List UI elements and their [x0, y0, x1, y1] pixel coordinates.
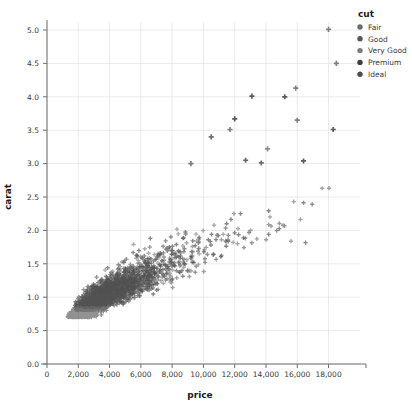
legend-swatch-very-good — [357, 48, 362, 53]
legend-label: Fair — [368, 23, 382, 32]
y-tick-label: 1.5 — [27, 260, 39, 269]
figure-background — [0, 0, 412, 406]
legend-label: Good — [368, 35, 388, 44]
y-tick-label: 3.0 — [27, 159, 39, 168]
x-tick-label: 14,000 — [253, 370, 279, 379]
y-axis-title: carat — [3, 183, 13, 210]
legend-swatch-fair — [357, 24, 362, 29]
legend-swatch-premium — [357, 60, 362, 65]
y-tick-label: 5.0 — [27, 26, 39, 35]
y-tick-label: 2.5 — [27, 193, 39, 202]
legend-swatch-good — [357, 36, 362, 41]
x-tick-label: 10,000 — [190, 370, 216, 379]
x-tick-label: 18,000 — [315, 370, 341, 379]
y-tick-label: 0.0 — [27, 360, 39, 369]
y-tick-label: 2.0 — [27, 226, 39, 235]
x-tick-label: 6,000 — [130, 370, 152, 379]
legend-title: cut — [358, 9, 375, 19]
legend-swatch-ideal — [357, 72, 362, 77]
legend-label: Premium — [368, 58, 401, 67]
x-tick-label: 0 — [45, 370, 50, 379]
y-tick-label: 4.5 — [27, 59, 39, 68]
y-tick-label: 0.5 — [27, 326, 39, 335]
x-tick-label: 8,000 — [161, 370, 183, 379]
y-tick-label: 3.5 — [27, 126, 39, 135]
legend-label: Ideal — [368, 70, 386, 79]
y-tick-label: 1.0 — [27, 293, 39, 302]
x-tick-label: 4,000 — [99, 370, 121, 379]
x-tick-label: 16,000 — [284, 370, 310, 379]
y-tick-label: 4.0 — [27, 93, 39, 102]
x-tick-label: 12,000 — [222, 370, 248, 379]
scatter-plot-figure: 0.00.51.01.52.02.53.03.54.04.55.002,0004… — [0, 0, 412, 406]
x-tick-label: 2,000 — [68, 370, 90, 379]
legend-label: Very Good — [368, 46, 407, 55]
x-axis-title: price — [187, 390, 212, 400]
